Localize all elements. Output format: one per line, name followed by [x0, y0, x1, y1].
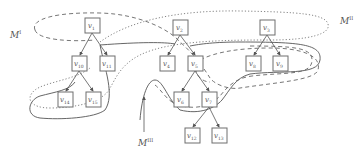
- node-v8: v8: [246, 56, 261, 71]
- node-v3: v3: [260, 20, 275, 35]
- partition-diagram: v1 v10 v11 v14 v15 v2 v4 v5 v6 v7 v12 v1…: [0, 0, 363, 154]
- label-m3: MIII: [137, 137, 153, 148]
- node-v9: v9: [273, 56, 288, 71]
- node-v4: v4: [160, 56, 175, 71]
- node-v7: v7: [202, 92, 217, 107]
- node-v6: v6: [174, 92, 189, 107]
- node-v10: v10: [72, 56, 87, 71]
- node-v2: v2: [173, 20, 188, 35]
- tree-edges: [66, 33, 280, 127]
- region-m3-boundary: [30, 42, 320, 120]
- node-v13: v13: [212, 128, 227, 143]
- label-m2: MII: [339, 15, 353, 26]
- node-v11: v11: [100, 56, 115, 71]
- node-v14: v14: [58, 92, 73, 107]
- label-m1: MI: [9, 29, 21, 40]
- node-v15: v15: [86, 92, 101, 107]
- node-v5: v5: [188, 56, 203, 71]
- node-v1: v1: [85, 18, 100, 33]
- node-v12: v12: [185, 128, 200, 143]
